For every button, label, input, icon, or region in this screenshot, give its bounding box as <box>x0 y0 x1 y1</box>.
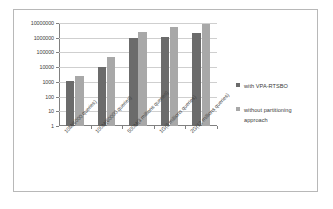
y-axis-tick-label: 10000 <box>40 64 55 70</box>
y-axis-tick-label: 10000000 <box>31 20 54 26</box>
y-axis-tick-label: 100000 <box>37 49 54 55</box>
y-axis-tick-label: 10 <box>48 108 54 114</box>
legend-label: without partitioning approach <box>244 106 314 126</box>
chart-figure: 100000001000000100000100001000100101 10M… <box>13 9 318 192</box>
x-axis-tick-labels: 10M(6000 queries)100M(60000 queries)500M… <box>59 126 229 192</box>
legend-item[interactable]: without partitioning approach <box>236 106 314 126</box>
chart-legend: with VPA-RTSBOwithout partitioning appro… <box>236 82 314 139</box>
y-axis-tick <box>56 52 59 53</box>
y-axis-tick <box>56 82 59 83</box>
legend-label: with VPA-RTSBO <box>244 82 288 92</box>
legend-swatch-icon <box>236 83 240 87</box>
legend-item[interactable]: with VPA-RTSBO <box>236 82 314 92</box>
y-axis-tick <box>56 38 59 39</box>
y-axis-tick <box>56 23 59 24</box>
y-axis-tick-label: 1000 <box>42 79 54 85</box>
legend-swatch-icon <box>236 107 240 111</box>
bar <box>192 33 201 126</box>
y-axis-tick-label: 100 <box>45 94 54 100</box>
bar <box>161 37 170 126</box>
y-axis-tick-label: 1000000 <box>34 35 54 41</box>
y-axis-tick <box>56 97 59 98</box>
y-axis-tick-label: 1 <box>51 123 54 129</box>
bar <box>129 38 138 126</box>
y-axis-tick <box>56 111 59 112</box>
y-axis-tick <box>56 67 59 68</box>
